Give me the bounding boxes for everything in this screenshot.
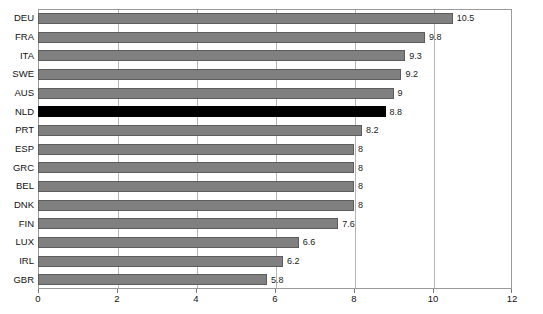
x-tick-label-4: 4 [193, 294, 198, 304]
category-label-fin: FIN [0, 219, 34, 229]
x-tick-label-12: 12 [507, 294, 518, 304]
bar-grc[interactable] [38, 162, 354, 173]
bar-row: 9.3 [38, 50, 512, 61]
bar-value-ita: 9.3 [409, 51, 422, 60]
bar-gbr[interactable] [38, 274, 267, 285]
category-label-irl: IRL [0, 256, 34, 266]
bar-value-aus: 9 [398, 89, 403, 98]
bar-fin[interactable] [38, 218, 338, 229]
category-label-deu: DEU [0, 14, 34, 24]
bar-value-lux: 6.6 [303, 238, 316, 247]
bar-row: 8 [38, 144, 512, 155]
bar-value-nld: 8.8 [390, 107, 403, 116]
category-label-grc: GRC [0, 163, 34, 173]
bar-prt[interactable] [38, 125, 362, 136]
category-label-esp: ESP [0, 144, 34, 154]
category-label-nld: NLD [0, 107, 34, 117]
bar-value-deu: 10.5 [457, 14, 475, 23]
bar-row: 6.2 [38, 256, 512, 267]
category-label-dnk: DNK [0, 200, 34, 210]
bar-row: 7.6 [38, 218, 512, 229]
bar-row: 8.8 [38, 106, 512, 117]
category-label-fra: FRA [0, 32, 34, 42]
bar-value-fra: 9.8 [429, 33, 442, 42]
category-label-lux: LUX [0, 238, 34, 248]
bar-row: 6.6 [38, 237, 512, 248]
bar-row: 9.2 [38, 69, 512, 80]
bar-ita[interactable] [38, 50, 405, 61]
bar-nld[interactable] [38, 106, 386, 117]
category-label-ita: ITA [0, 51, 34, 61]
x-axis: 024681012 [38, 289, 512, 311]
x-tick-label-10: 10 [428, 294, 439, 304]
bar-value-fin: 7.6 [342, 219, 355, 228]
bar-lux[interactable] [38, 237, 299, 248]
bar-swe[interactable] [38, 69, 401, 80]
bar-row: 10.5 [38, 13, 512, 24]
bar-dnk[interactable] [38, 200, 354, 211]
bar-bel[interactable] [38, 181, 354, 192]
category-label-gbr: GBR [0, 275, 34, 285]
bar-deu[interactable] [38, 13, 453, 24]
bar-value-dnk: 8 [358, 201, 363, 210]
x-tick-label-2: 2 [114, 294, 119, 304]
bar-row: 5.8 [38, 274, 512, 285]
bar-row: 9 [38, 88, 512, 99]
category-axis-labels: DEUFRAITASWEAUSNLDPRTESPGRCBELDNKFINLUXI… [0, 9, 34, 289]
bar-value-swe: 9.2 [405, 70, 418, 79]
category-label-prt: PRT [0, 126, 34, 136]
category-label-aus: AUS [0, 88, 34, 98]
bar-value-esp: 8 [358, 145, 363, 154]
bar-aus[interactable] [38, 88, 394, 99]
bar-row: 8.2 [38, 125, 512, 136]
x-tick-label-8: 8 [351, 294, 356, 304]
bar-fra[interactable] [38, 32, 425, 43]
bar-row: 8 [38, 162, 512, 173]
bar-row: 8 [38, 181, 512, 192]
x-tick-label-6: 6 [272, 294, 277, 304]
bar-value-gbr: 5.8 [271, 275, 284, 284]
bar-value-prt: 8.2 [366, 126, 379, 135]
bar-value-grc: 8 [358, 163, 363, 172]
bar-value-irl: 6.2 [287, 257, 300, 266]
bar-value-bel: 8 [358, 182, 363, 191]
category-label-bel: BEL [0, 182, 34, 192]
bar-esp[interactable] [38, 144, 354, 155]
category-label-swe: SWE [0, 70, 34, 80]
bars-layer: 10.59.89.39.298.88.288887.66.66.25.8 [38, 9, 512, 289]
bar-chart: DEUFRAITASWEAUSNLDPRTESPGRCBELDNKFINLUXI… [0, 0, 543, 314]
bar-row: 9.8 [38, 32, 512, 43]
x-tick-label-0: 0 [35, 294, 40, 304]
bar-irl[interactable] [38, 256, 283, 267]
bar-row: 8 [38, 200, 512, 211]
